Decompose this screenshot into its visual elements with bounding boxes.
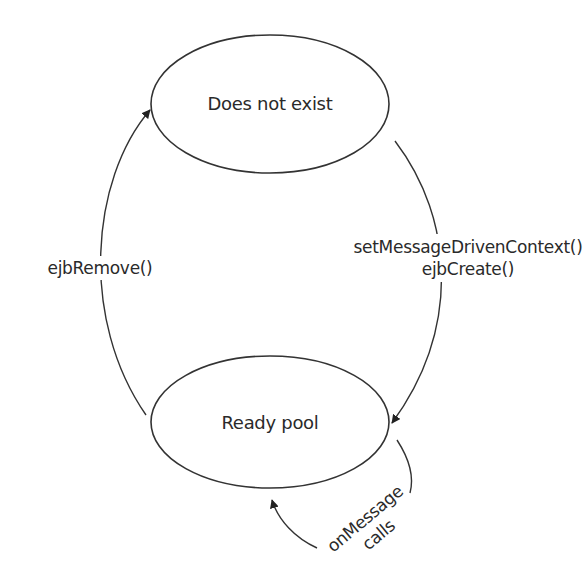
state-label-does-not-exist: Does not exist: [208, 93, 333, 114]
transition-label-set-context: setMessageDrivenContext(): [354, 236, 583, 258]
transition-onmessage-arrow: [272, 500, 317, 548]
state-diagram-canvas: [0, 0, 587, 586]
transition-label-ejbcreate: ejbCreate(): [354, 258, 583, 280]
transition-label-create: setMessageDrivenContext() ejbCreate(): [352, 234, 585, 282]
state-label-ready-pool: Ready pool: [221, 412, 318, 433]
transition-onmessage-loop-start: [397, 440, 411, 493]
transition-label-ejbremove: ejbRemove(): [45, 256, 156, 280]
transition-create-arrow: [392, 141, 442, 423]
